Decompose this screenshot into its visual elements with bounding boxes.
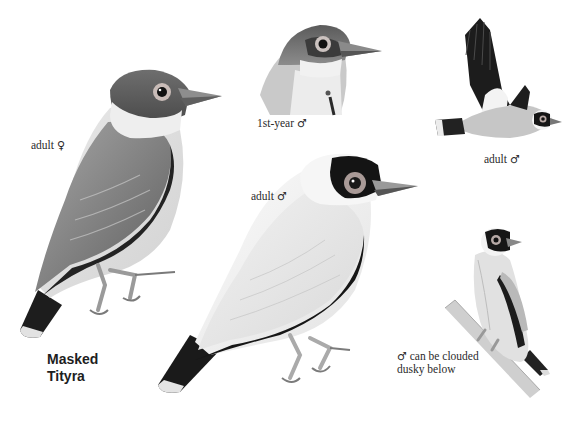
label-text: adult	[484, 153, 507, 165]
adult-male-label: adult ♂	[251, 190, 287, 203]
male-symbol-icon: ♂	[277, 190, 287, 203]
label-text: adult	[31, 139, 54, 151]
female-symbol-icon: ♀	[57, 139, 65, 152]
male-clouded-label: ♂ can be clouded dusky below	[397, 350, 479, 376]
field-guide-plate: adult ♀	[0, 0, 587, 425]
label-text: 1st-year	[257, 117, 294, 129]
adult-male-flight-illustration	[430, 10, 570, 145]
label-text: adult	[251, 190, 274, 202]
species-title-line-2: Tityra	[47, 368, 98, 385]
adult-male-flight-label: adult ♂	[484, 153, 520, 166]
species-title-line-1: Masked	[47, 351, 98, 368]
label-line-2: dusky below	[397, 363, 479, 376]
first-year-male-illustration	[250, 15, 390, 115]
male-symbol-icon: ♂	[297, 117, 307, 130]
adult-female-label: adult ♀	[31, 139, 65, 152]
male-symbol-icon: ♂	[397, 350, 407, 363]
species-title: Masked Tityra	[47, 351, 98, 385]
first-year-male-label: 1st-year ♂	[257, 117, 307, 130]
male-symbol-icon: ♂	[510, 153, 520, 166]
adult-male-illustration	[150, 150, 420, 400]
label-line-1: can be clouded	[410, 350, 479, 362]
